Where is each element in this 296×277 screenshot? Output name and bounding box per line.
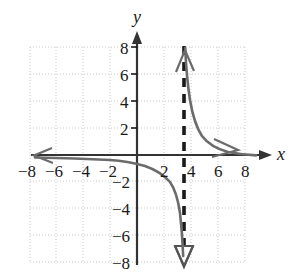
x-tick-label--4: −4 [72,163,90,180]
x-tick-label--8: −8 [18,163,36,180]
coordinate-plane [0,0,296,277]
graph-figure: y x −8 −6 −4 −2 2 4 6 8 8 6 4 2 −2 −4 −6… [0,0,296,277]
y-tick-label--4: −4 [112,201,130,218]
y-tick-label--8: −8 [112,255,130,272]
x-tick-label-6: 6 [214,163,223,180]
y-tick-label-6: 6 [120,67,129,84]
y-tick-label--2: −2 [112,174,130,191]
y-tick-label--6: −6 [112,228,130,245]
curve-right-branch [176,48,256,157]
y-axis [132,31,142,265]
x-tick-label--6: −6 [45,163,63,180]
y-tick-label-4: 4 [120,94,129,111]
y-tick-label-8: 8 [120,40,129,57]
x-tick-label-8: 8 [241,163,250,180]
x-axis-label: x [277,145,285,163]
vertical-asymptote-x-equals-3 [175,46,193,267]
y-axis-label: y [133,8,141,26]
x-tick-label-2: 2 [160,163,169,180]
x-tick-label-4: 4 [187,163,196,180]
y-tick-label-2: 2 [120,121,129,138]
